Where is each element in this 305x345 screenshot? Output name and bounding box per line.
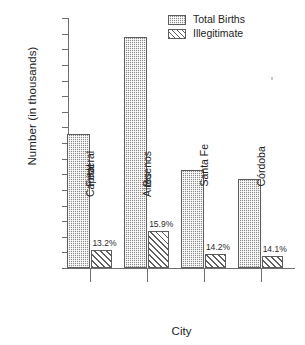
legend-label-illegitimate: Illegitimate	[193, 27, 243, 40]
y-axis-tick	[62, 65, 68, 66]
x-axis-category-label-line: Aires	[142, 187, 153, 198]
y-axis-title: Number (in thousands)	[26, 6, 38, 206]
x-axis-tick	[261, 268, 262, 282]
y-axis-tick	[62, 81, 68, 82]
x-axis-category-label: Santa Fe	[199, 176, 215, 266]
y-axis-tick	[62, 18, 68, 19]
legend-item-total-births: Total Births	[168, 13, 245, 26]
scan-artifact-speck	[271, 77, 273, 80]
legend-item-illegitimate: Illegitimate	[168, 27, 245, 40]
x-axis-title: City	[68, 325, 295, 337]
legend-swatch-total-births-icon	[168, 15, 186, 25]
chart-legend: Total Births Illegitimate	[168, 13, 245, 41]
x-axis-category-label-line: Córdoba	[256, 176, 267, 187]
x-axis-category-label-line: Santa Fe	[199, 176, 210, 187]
x-axis-category-label: FederalCapital	[85, 176, 101, 266]
chart-figure: Number (in thousands) 051015202530354045…	[0, 0, 305, 345]
y-axis-tick	[62, 268, 68, 269]
x-axis-tick	[90, 268, 91, 282]
legend-swatch-illegitimate-icon	[168, 29, 186, 39]
x-axis-category-label: Córdoba	[256, 176, 272, 266]
x-axis-tick	[147, 268, 148, 282]
x-axis-tick	[204, 268, 205, 282]
legend-label-total-births: Total Births	[193, 13, 245, 26]
x-axis-category-label-line: Capital	[85, 187, 96, 198]
y-axis-tick	[62, 49, 68, 50]
x-axis-category-label: BuenosAires	[142, 176, 158, 266]
x-axis-category-label-line: Federal	[85, 176, 96, 187]
x-axis-category-label-line: Buenos	[142, 176, 153, 187]
y-axis-tick	[62, 112, 68, 113]
y-axis-tick	[62, 96, 68, 97]
y-axis-tick	[62, 34, 68, 35]
y-axis-tick	[62, 127, 68, 128]
